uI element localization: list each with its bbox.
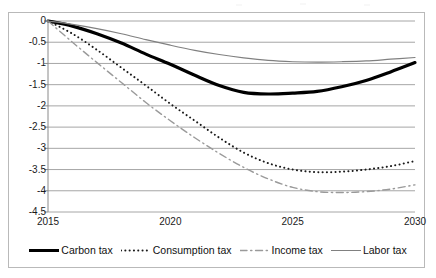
y-tick-label: -2 bbox=[10, 101, 46, 111]
y-tick-label: -2.5 bbox=[10, 122, 46, 132]
y-tick-label: -1 bbox=[10, 58, 46, 68]
series-line-labor-tax bbox=[48, 21, 415, 62]
legend-label: Income tax bbox=[272, 245, 323, 256]
series-line-income-tax bbox=[48, 21, 415, 192]
series-line-carbon-tax bbox=[48, 21, 415, 94]
series-group bbox=[48, 21, 415, 192]
y-axis-tick-labels: 0-0.5-1-1.5-2-2.5-3-3.5-4-4.5 bbox=[10, 12, 46, 222]
dotted-line-swatch bbox=[121, 245, 151, 256]
solid-thin-line-swatch bbox=[331, 245, 361, 256]
y-tick-label: -0.5 bbox=[10, 37, 46, 47]
legend-label: Labor tax bbox=[363, 245, 407, 256]
chart-legend: Carbon taxConsumption taxIncome taxLabor… bbox=[24, 241, 412, 259]
x-tick-label: 2030 bbox=[395, 216, 435, 227]
gridlines-group bbox=[48, 21, 415, 212]
y-tick-label: -3 bbox=[10, 143, 46, 153]
legend-item-carbon-tax: Carbon tax bbox=[29, 245, 112, 256]
legend-item-consumption-tax: Consumption tax bbox=[121, 245, 232, 256]
y-tick-label: -1.5 bbox=[10, 80, 46, 90]
series-line-consumption-tax bbox=[48, 21, 415, 172]
legend-label: Consumption tax bbox=[153, 245, 232, 256]
legend-item-income-tax: Income tax bbox=[240, 245, 323, 256]
dash-dot-line-swatch bbox=[240, 245, 270, 256]
y-tick-label: -4 bbox=[10, 186, 46, 196]
solid-thick-line-swatch bbox=[29, 245, 59, 256]
legend-item-labor-tax: Labor tax bbox=[331, 245, 407, 256]
chart-container: 0-0.5-1-1.5-2-2.5-3-3.5-4-4.5 2015202020… bbox=[0, 0, 436, 278]
y-tick-label: 0 bbox=[10, 16, 46, 26]
x-tick-label: 2015 bbox=[28, 216, 68, 227]
x-tick-label: 2025 bbox=[273, 216, 313, 227]
y-tick-label: -3.5 bbox=[10, 165, 46, 175]
legend-label: Carbon tax bbox=[61, 245, 112, 256]
x-tick-label: 2020 bbox=[150, 216, 190, 227]
plot-area bbox=[0, 0, 436, 278]
